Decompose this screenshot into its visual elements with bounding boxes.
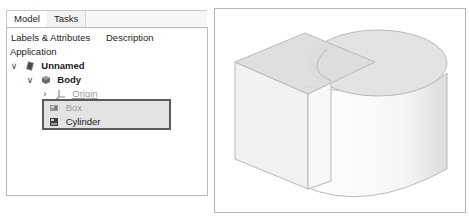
tab-bar: Model Tasks: [6, 10, 207, 28]
application-label: Application: [10, 46, 56, 57]
box-icon: [49, 103, 59, 113]
document-icon: [25, 61, 35, 71]
origin-axes-icon: [56, 89, 66, 99]
body-icon: [41, 75, 51, 85]
cylinder-icon: [49, 117, 59, 127]
tree-root-application: Application: [10, 45, 56, 59]
tree-item-body[interactable]: ∨ Body: [25, 73, 81, 87]
tree-item-label: Cylinder: [66, 116, 101, 127]
3d-viewport[interactable]: [214, 8, 466, 213]
column-header-description[interactable]: Description: [106, 32, 154, 43]
tab-model[interactable]: Model: [7, 11, 48, 27]
tab-tasks[interactable]: Tasks: [47, 11, 86, 27]
tree-item-label: Body: [57, 74, 81, 85]
column-header-labels[interactable]: Labels & Attributes: [11, 32, 90, 43]
tree-item-box[interactable]: Box: [46, 101, 82, 115]
chevron-down-icon[interactable]: ∨: [9, 59, 19, 73]
chevron-down-icon[interactable]: ∨: [25, 73, 35, 87]
tree-item-unnamed[interactable]: ∨ Unnamed: [9, 59, 85, 73]
tree-item-cylinder[interactable]: Cylinder: [46, 115, 101, 129]
3d-scene[interactable]: [215, 9, 465, 212]
tree-item-label: Box: [66, 102, 82, 113]
tree-header: Labels & Attributes Description: [11, 32, 201, 46]
tree-item-label: Origin: [72, 88, 97, 99]
app-window: Model Tasks Labels & Attributes Descript…: [0, 0, 469, 219]
tree-item-label: Unnamed: [41, 60, 84, 71]
